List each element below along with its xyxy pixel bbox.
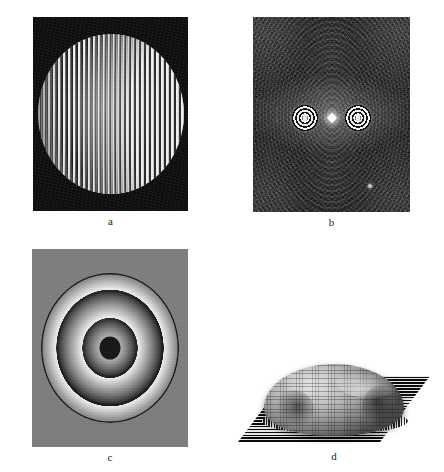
phasemap-aperture-disc xyxy=(41,273,179,423)
panel-a-caption: a xyxy=(33,215,188,228)
panel-b-caption: b xyxy=(253,216,410,229)
fringe-layer xyxy=(38,34,184,194)
sideband-right-core xyxy=(356,115,361,122)
sideband-left xyxy=(290,103,320,133)
interferogram-aperture-disc xyxy=(38,34,184,194)
panel-c-caption: c xyxy=(32,451,188,464)
spectrum-background xyxy=(253,17,410,212)
panel-d-caption: d xyxy=(236,450,432,463)
panel-c-wrapped-phase-map: c xyxy=(32,249,188,447)
wrapped-phase-image xyxy=(32,249,188,447)
surface-dome xyxy=(264,364,404,436)
fringe-band-right xyxy=(38,34,184,194)
panel-d-unwrapped-surface-plot: d xyxy=(236,352,432,447)
interferogram-image xyxy=(33,17,188,211)
sideband-left-core xyxy=(303,115,308,122)
stray-spectral-dot xyxy=(368,184,372,188)
sideband-right xyxy=(343,103,373,133)
dome-body xyxy=(264,364,404,436)
fourier-spectrum-image xyxy=(253,17,410,212)
panel-b-fourier-spectrum: b xyxy=(253,17,410,212)
surface-plot-image xyxy=(236,352,432,447)
surface-stage xyxy=(236,352,432,447)
phasemap-center-disc xyxy=(100,337,121,360)
panel-a-interferogram: a xyxy=(33,17,188,211)
figure-sheet: a b xyxy=(0,0,444,472)
